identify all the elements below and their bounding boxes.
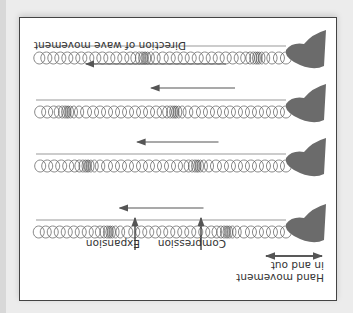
- hand-icon: [286, 30, 326, 68]
- slinky-spring: [35, 106, 292, 118]
- expansion-label: Expansion: [86, 238, 140, 250]
- hand-icon: [286, 204, 326, 242]
- hand-movement-label-2: in and out: [271, 260, 324, 272]
- hand-icon: [286, 84, 326, 122]
- slinky-spring: [34, 52, 292, 64]
- compression-label: Compression: [158, 238, 226, 250]
- page-edge: [0, 0, 6, 313]
- hand-movement-label: Hand movement: [236, 272, 324, 284]
- diagram-frame: Hand movement in and out Compression Exp…: [19, 17, 337, 301]
- direction-label: Direction of wave movement: [34, 40, 186, 52]
- slinky-diagram-svg: [20, 18, 336, 300]
- slinky-spring: [33, 226, 291, 238]
- diagram-canvas: Hand movement in and out Compression Exp…: [20, 18, 336, 300]
- hand-icon: [286, 138, 326, 176]
- slinky-spring: [35, 160, 292, 172]
